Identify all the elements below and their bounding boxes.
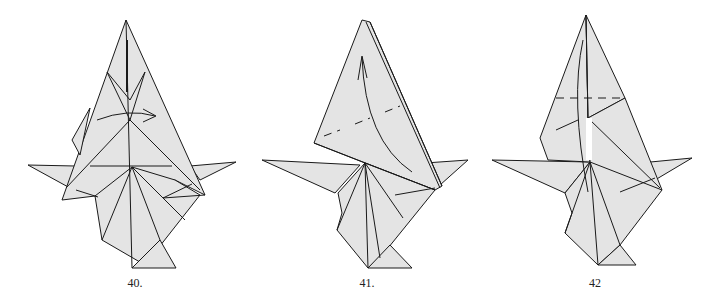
origami-figure-42 — [470, 0, 717, 298]
step-label-40: 40. — [105, 276, 165, 291]
step-42-diagram: 42 — [470, 0, 717, 298]
origami-figure-41 — [240, 0, 480, 298]
step-label-42: 42 — [565, 276, 625, 291]
origami-figure-40 — [0, 0, 250, 298]
step-40-diagram: 40. — [0, 0, 250, 298]
step-label-41: 41. — [337, 276, 397, 291]
step-41-diagram: 41. — [240, 0, 480, 298]
